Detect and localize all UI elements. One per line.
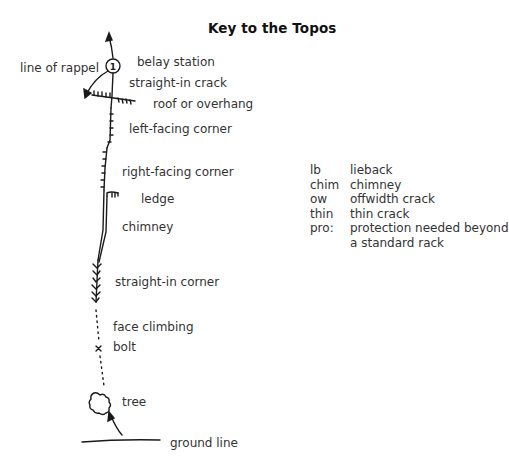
label-line-of-rappel: line of rappel bbox=[20, 61, 99, 75]
label-chimney: chimney bbox=[122, 220, 173, 234]
label-right-facing-corner: right-facing corner bbox=[122, 165, 234, 179]
label-ledge: ledge bbox=[141, 192, 174, 206]
label-left-facing-corner: left-facing corner bbox=[129, 122, 232, 136]
abbr-meaning: thin crack bbox=[350, 207, 410, 222]
abbr-meaning: protection needed beyond bbox=[350, 221, 509, 236]
rappel-arrow-icon bbox=[84, 71, 108, 98]
face-climbing-line-lower bbox=[100, 356, 104, 386]
label-ground-line: ground line bbox=[170, 436, 238, 450]
chimney-icon bbox=[98, 190, 107, 262]
abbr-key: lb bbox=[310, 163, 350, 178]
ground-line-icon bbox=[82, 440, 160, 442]
label-straight-in-crack: straight-in crack bbox=[129, 76, 227, 90]
abbr-meaning: a standard rack bbox=[350, 236, 444, 251]
abbr-row: chimchimney bbox=[310, 178, 509, 193]
straight-in-corner-icon bbox=[92, 260, 101, 302]
abbr-meaning: lieback bbox=[350, 163, 393, 178]
abbr-meaning: offwidth crack bbox=[350, 192, 435, 207]
abbr-key: chim bbox=[310, 178, 350, 193]
label-belay-station: belay station bbox=[137, 55, 215, 69]
face-climbing-line bbox=[96, 310, 99, 342]
approach-arrow-icon bbox=[108, 412, 122, 435]
label-roof-or-overhang: roof or overhang bbox=[153, 97, 253, 111]
ledge-icon bbox=[107, 192, 118, 197]
straight-in-crack-line bbox=[111, 73, 113, 108]
abbr-row: owoffwidth crack bbox=[310, 192, 509, 207]
roof-overhang-icon bbox=[92, 91, 135, 104]
abbr-row: lblieback bbox=[310, 163, 509, 178]
label-bolt: bolt bbox=[113, 340, 136, 354]
abbr-row: thinthin crack bbox=[310, 207, 509, 222]
label-straight-in-corner: straight-in corner bbox=[115, 275, 219, 289]
left-facing-corner-icon bbox=[107, 108, 113, 148]
tree-icon bbox=[89, 393, 110, 415]
abbreviations-list: lblieback chimchimney owoffwidth crack t… bbox=[310, 163, 509, 251]
abbr-row: a standard rack bbox=[310, 236, 509, 251]
right-facing-corner-icon bbox=[101, 148, 107, 190]
route-arrow-up-icon bbox=[106, 33, 113, 58]
label-tree: tree bbox=[122, 395, 146, 409]
abbr-row: pro:protection needed beyond bbox=[310, 221, 509, 236]
abbr-key bbox=[310, 236, 350, 251]
label-face-climbing: face climbing bbox=[113, 320, 194, 334]
abbr-key: ow bbox=[310, 192, 350, 207]
abbr-key: pro: bbox=[310, 221, 350, 236]
bolt-icon bbox=[96, 346, 101, 351]
abbr-key: thin bbox=[310, 207, 350, 222]
svg-text:1: 1 bbox=[110, 62, 116, 72]
abbr-meaning: chimney bbox=[350, 178, 401, 193]
